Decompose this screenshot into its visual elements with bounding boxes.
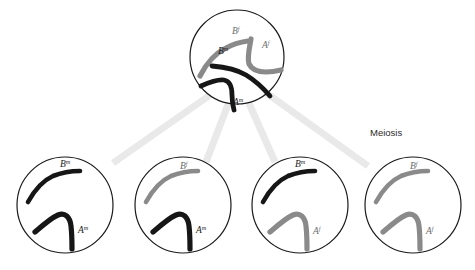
connector-to-cell-3 <box>248 101 275 162</box>
daughter-cell-4: BfAf <box>365 157 461 253</box>
daughter-cell-2: BfAm <box>135 157 231 253</box>
stage-label-meiosis: Meiosis <box>370 127 402 138</box>
meiosis-diagram-canvas: BfAfBmAm BmAmBfAmBmAfBfAf Meiosis <box>0 0 475 270</box>
daughter-cell-1: BmAm <box>17 157 113 253</box>
connector-to-cell-1 <box>113 93 213 163</box>
daughter-cells-group: BmAmBfAmBmAfBfAf <box>17 157 461 253</box>
connector-to-cell-2 <box>206 102 229 162</box>
meiosis-diagram: BfAfBmAm BmAmBfAmBmAfBfAf Meiosis <box>0 0 475 270</box>
connector-to-cell-4 <box>265 92 368 166</box>
parent-chromosome-Am-label: Am <box>232 96 244 107</box>
daughter-cell-3: BmAf <box>252 157 348 253</box>
